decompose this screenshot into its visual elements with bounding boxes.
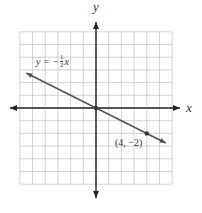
point-label: (4, −2)	[115, 137, 142, 148]
equation-label: y = − 1 2 x	[36, 54, 69, 69]
equation-fraction: 1 2	[60, 54, 64, 69]
x-axis-left-arrow-icon	[10, 105, 17, 111]
y-axis-label: y	[93, 0, 99, 15]
coordinate-plane	[0, 0, 202, 213]
fraction-denominator: 2	[60, 62, 64, 69]
plotted-point	[145, 131, 149, 135]
x-axis-right-arrow-icon	[173, 105, 180, 111]
equation-prefix: y = −	[36, 56, 59, 67]
x-axis-label: x	[186, 100, 192, 116]
y-axis-up-arrow-icon	[93, 22, 99, 29]
plotted-point	[94, 106, 98, 110]
y-axis-down-arrow-icon	[93, 191, 99, 198]
equation-suffix: x	[64, 56, 68, 67]
